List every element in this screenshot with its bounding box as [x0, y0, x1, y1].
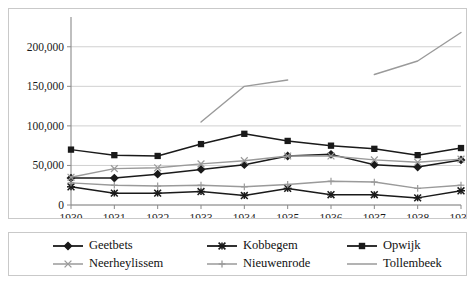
y-axis-label-150000: 150,000	[27, 80, 65, 93]
marker-asterisk	[327, 191, 335, 198]
chart-legend: GeetbetsKobbegemOpwijkNeerheylissemNieuw…	[9, 233, 466, 275]
legend-item-kobbegem[interactable]: Kobbegem	[207, 238, 298, 252]
series-nieuwenrode	[68, 178, 465, 192]
x-axis-label-1937: 1937	[363, 212, 386, 218]
marker-asterisk	[370, 191, 378, 198]
line-chart-canvas: 050,000100,000150,000200,000193019311932…	[9, 9, 466, 218]
y-axis-label-50000: 50,000	[32, 159, 64, 172]
y-axis-label-200000: 200,000	[27, 41, 65, 54]
marker-asterisk	[414, 194, 422, 201]
marker-diamond	[154, 171, 161, 178]
marker-square	[415, 153, 420, 158]
marker-plus	[241, 183, 248, 190]
marker-square	[329, 143, 334, 148]
chart-figure: 050,000100,000150,000200,000193019311932…	[0, 0, 475, 282]
x-axis-label-1939: 1939	[450, 212, 467, 218]
legend-label: Opwijk	[383, 238, 421, 252]
legend-item-tollembeek[interactable]: Tollembeek	[347, 256, 443, 270]
marker-plus	[198, 182, 205, 189]
series-opwijk	[69, 131, 464, 158]
series-line-tollembeek	[374, 33, 461, 75]
plot-area-frame: 050,000100,000150,000200,000193019311932…	[8, 8, 467, 219]
marker-asterisk	[240, 192, 248, 199]
y-axis-label-100000: 100,000	[27, 120, 65, 133]
legend-label: Neerheylissem	[89, 256, 164, 270]
marker-square	[112, 153, 117, 158]
y-axis-label-0: 0	[58, 199, 64, 211]
series-line-opwijk	[71, 134, 461, 156]
x-axis-label-1935: 1935	[276, 212, 299, 218]
legend-item-geetbets[interactable]: Geetbets	[53, 238, 133, 252]
marker-plus	[219, 261, 226, 268]
legend-label: Kobbegem	[243, 238, 298, 252]
marker-plus	[154, 183, 161, 190]
marker-square	[372, 146, 377, 151]
legend-item-opwijk[interactable]: Opwijk	[347, 238, 421, 252]
legend-label: Geetbets	[89, 238, 133, 252]
marker-plus	[371, 179, 378, 186]
x-axis-label-1936: 1936	[320, 212, 343, 218]
marker-diamond	[65, 243, 72, 250]
marker-plus	[111, 182, 118, 189]
legend-label: Nieuwenrode	[243, 256, 311, 270]
x-axis-label-1931: 1931	[103, 212, 126, 218]
marker-square	[285, 139, 290, 144]
marker-asterisk	[154, 190, 162, 197]
marker-square	[199, 142, 204, 147]
marker-asterisk	[218, 243, 226, 250]
x-axis-label-1932: 1932	[146, 212, 169, 218]
marker-plus	[328, 178, 335, 185]
series-line-nieuwenrode	[71, 181, 461, 188]
marker-plus	[414, 185, 421, 192]
legend-label: Tollembeek	[383, 256, 443, 270]
marker-square	[69, 147, 74, 152]
marker-square	[459, 146, 464, 151]
x-axis-label-1933: 1933	[190, 212, 213, 218]
marker-square	[155, 154, 160, 159]
legend-item-neerheylissem[interactable]: Neerheylissem	[53, 256, 164, 270]
x-axis-label-1934: 1934	[233, 212, 256, 218]
series-tollembeek	[201, 33, 461, 122]
marker-diamond	[111, 175, 118, 182]
x-axis-label-1938: 1938	[406, 212, 429, 218]
marker-square	[360, 244, 365, 249]
marker-asterisk	[197, 188, 205, 195]
legend-frame: GeetbetsKobbegemOpwijkNeerheylissemNieuw…	[8, 232, 467, 276]
legend-item-nieuwenrode[interactable]: Nieuwenrode	[207, 256, 311, 270]
x-axis-label-1930: 1930	[60, 212, 83, 218]
marker-asterisk	[110, 190, 118, 197]
series-line-kobbegem	[71, 187, 461, 198]
marker-square	[242, 131, 247, 136]
